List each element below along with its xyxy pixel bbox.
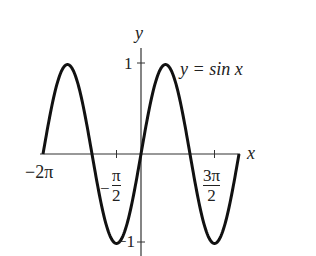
x-tick-label-neg-2pi: −2π	[25, 163, 53, 181]
frac-den: 2	[112, 187, 121, 204]
frac-den: 2	[207, 187, 216, 204]
frac-num: π	[112, 167, 121, 184]
x-axis-label: x	[247, 144, 255, 162]
x-tick-label-3half-pi: 3π 2	[203, 167, 220, 204]
curve-label-text: y = sin x	[180, 59, 243, 79]
y-axis-label: y	[135, 24, 143, 42]
frac-num: 3π	[203, 167, 220, 184]
curve-label: y = sin x	[180, 60, 243, 78]
y-tick-label-1: 1	[124, 55, 133, 72]
sine-chart	[0, 0, 316, 256]
y-tick-label-neg1: −1	[117, 233, 135, 250]
x-tick-label-neg-half-pi-sign: −	[100, 180, 110, 197]
x-tick-label-neg-half-pi: π 2	[112, 167, 121, 204]
